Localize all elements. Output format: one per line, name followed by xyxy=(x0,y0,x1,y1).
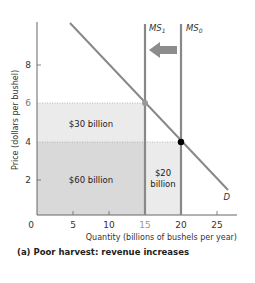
ms1-label: MS1 xyxy=(149,23,166,34)
shift-arrow-icon xyxy=(149,42,177,58)
ms0-label: MS0 xyxy=(186,23,203,34)
x-tick-label-15: 15 xyxy=(139,220,150,230)
region-60-label: $60 billion xyxy=(69,175,113,185)
x-tick-label-10: 10 xyxy=(103,220,115,230)
y-tick-label-8: 8 xyxy=(25,60,31,70)
new-equilibrium-point xyxy=(142,100,148,106)
figure-caption: (a) Poor harvest: revenue increases xyxy=(17,247,189,257)
y-tick-label-2: 2 xyxy=(25,175,31,185)
region-30-label: $30 billion xyxy=(69,119,113,129)
original-equilibrium-point xyxy=(178,139,184,145)
x-tick-label-20: 20 xyxy=(175,220,187,230)
demand-label: D xyxy=(223,192,230,202)
x-tick-label-25: 25 xyxy=(211,220,222,230)
y-tick-label-6: 6 xyxy=(25,98,31,108)
x-tick-label-0: 0 xyxy=(28,220,34,230)
region-20-label-line1: $20 xyxy=(155,168,171,178)
y-tick-label-4: 4 xyxy=(25,137,31,147)
region-20-label-line2: billion xyxy=(150,179,175,189)
x-tick-label-5: 5 xyxy=(70,220,76,230)
x-axis-title: Quantity (billions of bushels per year) xyxy=(86,233,237,242)
y-axis-title: Price (dollars per bushel) xyxy=(11,70,20,170)
chart: 8 6 4 2 0 5 10 15 20 25 Price (dollars p… xyxy=(0,0,255,283)
